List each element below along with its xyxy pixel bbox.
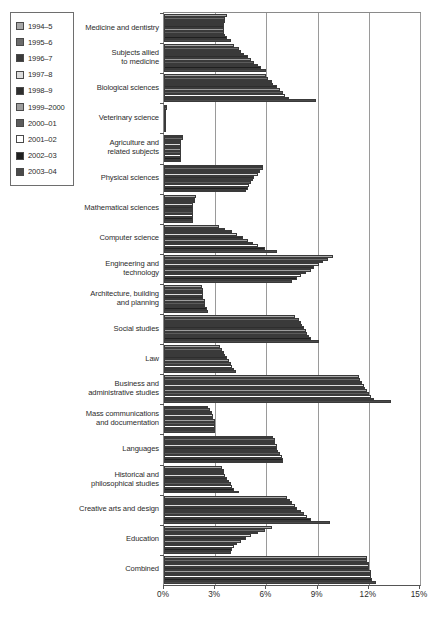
legend-swatch-icon <box>16 87 24 95</box>
category-label: Historical andphilosophical studies <box>62 470 159 488</box>
category-label: Agriculture andrelated subjects <box>62 138 159 156</box>
bar <box>164 521 330 524</box>
chart-legend: 1994–51995–61996–71997–81998–91999–20002… <box>10 12 74 186</box>
bar-groups <box>164 13 420 585</box>
bar-row <box>164 220 420 223</box>
bar-row <box>164 581 420 584</box>
bar-group <box>164 525 420 555</box>
category-label: Medicine and dentistry <box>62 23 159 32</box>
category-label: Subjects alliedto medicine <box>62 48 159 66</box>
legend-item-3: 1996–7 <box>16 50 69 66</box>
bar-row <box>164 340 420 343</box>
category-label: Biological sciences <box>62 83 159 92</box>
bar-group <box>164 133 420 163</box>
x-axis-tick <box>163 585 164 589</box>
bar <box>164 250 277 253</box>
x-axis-tick <box>368 585 369 589</box>
bar <box>164 340 319 343</box>
category-label: Architecture, buildingand planning <box>62 289 159 307</box>
category-label: Veterinary science <box>62 113 159 122</box>
legend-item-label: 2002–03 <box>28 151 57 160</box>
bar-row <box>164 400 420 403</box>
bar-row <box>164 99 420 102</box>
legend-item-label: 1996–7 <box>28 54 52 63</box>
bar <box>164 99 316 102</box>
category-axis-labels: Medicine and dentistrySubjects alliedto … <box>62 12 159 584</box>
category-label: Combined <box>62 564 159 573</box>
bar-group <box>164 314 420 344</box>
legend-item-label: 2000–01 <box>28 119 57 128</box>
bar-group <box>164 555 420 585</box>
x-axis-tick <box>419 585 420 589</box>
legend-swatch-icon <box>16 71 24 79</box>
category-label: Business andadministrative studies <box>62 379 159 397</box>
x-axis-tick-label: 15% <box>411 590 427 599</box>
bar-row <box>164 280 420 283</box>
category-label: Mathematical sciences <box>62 203 159 212</box>
x-axis-tick-label: 0% <box>157 590 169 599</box>
legend-item-label: 2001–02 <box>28 135 57 144</box>
bar <box>164 220 193 223</box>
bar-row <box>164 39 420 42</box>
legend-swatch-icon <box>16 152 24 160</box>
legend-item-8: 2001–02 <box>16 131 69 147</box>
legend-item-5: 1998–9 <box>16 83 69 99</box>
bar-row <box>164 370 420 373</box>
category-label: Languages <box>62 444 159 453</box>
bar <box>164 190 246 193</box>
bar-row <box>164 461 420 464</box>
legend-item-7: 2000–01 <box>16 115 69 131</box>
category-label: Computer science <box>62 233 159 242</box>
bar-group <box>164 103 420 133</box>
bar-group <box>164 224 420 254</box>
bar-group <box>164 374 420 404</box>
x-axis: 0%3%6%9%12%15% <box>163 585 421 605</box>
category-label: Education <box>62 534 159 543</box>
bar <box>164 551 231 554</box>
bar <box>164 461 283 464</box>
legend-item-6: 1999–2000 <box>16 99 69 115</box>
bar-row <box>164 250 420 253</box>
plot-area <box>163 12 421 586</box>
bar <box>164 310 208 313</box>
bar-row <box>164 430 420 433</box>
bar-group <box>164 43 420 73</box>
legend-swatch-icon <box>16 38 24 46</box>
x-axis-tick-label: 12% <box>360 590 376 599</box>
x-axis-tick <box>265 585 266 589</box>
category-label: Creative arts and design <box>62 504 159 513</box>
legend-item-label: 1997–8 <box>28 70 52 79</box>
legend-item-4: 1997–8 <box>16 67 69 83</box>
x-axis-tick-label: 6% <box>259 590 271 599</box>
legend-swatch-icon <box>16 54 24 62</box>
x-axis-tick <box>317 585 318 589</box>
legend-item-label: 1998–9 <box>28 86 52 95</box>
bar-group <box>164 284 420 314</box>
gridline-15% <box>420 13 421 585</box>
bar-group <box>164 495 420 525</box>
legend-swatch-icon <box>16 103 24 111</box>
bar-row <box>164 129 420 132</box>
bar-group <box>164 13 420 43</box>
legend-item-label: 1999–2000 <box>28 103 65 112</box>
bar <box>164 160 181 163</box>
bar-group <box>164 164 420 194</box>
legend-item-label: 1994–5 <box>28 22 52 31</box>
bar <box>164 491 239 494</box>
bar-row <box>164 69 420 72</box>
x-axis-tick-label: 9% <box>311 590 323 599</box>
bar <box>164 129 166 132</box>
legend-swatch-icon <box>16 135 24 143</box>
bar-row <box>164 310 420 313</box>
bar-chart: 1994–51995–61996–71997–81998–91999–20002… <box>0 0 439 619</box>
bar-group <box>164 465 420 495</box>
bar-row <box>164 551 420 554</box>
bar-row <box>164 160 420 163</box>
legend-item-label: 1995–6 <box>28 38 52 47</box>
legend-item-2: 1995–6 <box>16 34 69 50</box>
bar <box>164 430 215 433</box>
legend-item-9: 2002–03 <box>16 148 69 164</box>
bar-row <box>164 491 420 494</box>
category-label: Mass communicationsand documentation <box>62 409 159 427</box>
legend-item-10: 2003–04 <box>16 164 69 180</box>
